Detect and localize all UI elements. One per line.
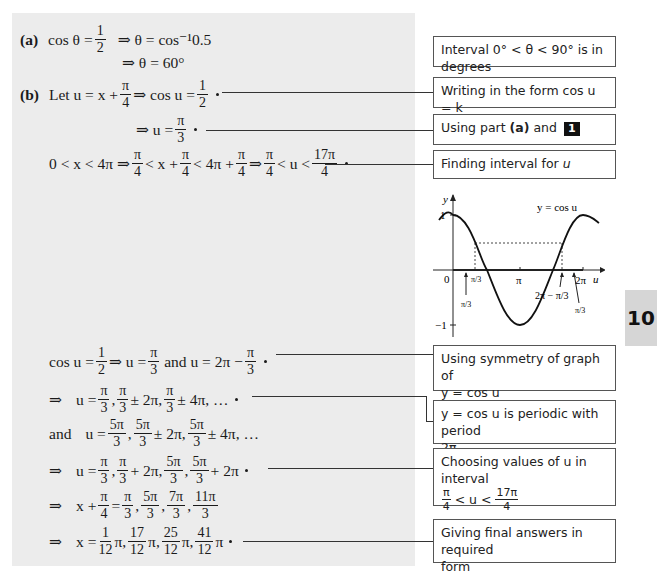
- svg-text:2π − π/3: 2π − π/3: [535, 290, 569, 301]
- annotation-form: Writing in the form cos u = k: [433, 77, 616, 108]
- fraction: π3: [245, 346, 256, 377]
- expr: cos θ =: [48, 31, 93, 49]
- fraction: π3: [98, 384, 109, 415]
- fraction: 112: [98, 526, 112, 557]
- fraction: 5π3: [108, 418, 126, 449]
- part-a-label: (a): [20, 31, 38, 49]
- expr: ⇒ θ = 60°: [122, 54, 184, 72]
- expr: 0 < x < 4π ⇒: [49, 155, 130, 173]
- expr: ± 2π,: [154, 425, 186, 443]
- annotation-text: Giving final answers in required: [441, 524, 608, 558]
- y-axis-arrow-icon: [450, 194, 456, 201]
- connector-dot: [194, 128, 197, 131]
- expr: ⇒: [249, 155, 262, 173]
- implies-arrow: ⇒: [49, 497, 62, 515]
- pi: π: [182, 533, 190, 551]
- fraction: 12: [96, 346, 107, 377]
- part-b-line-7: ⇒ u = π3, π3 + 2π, 5π3, 5π3 + 2π: [49, 455, 248, 486]
- expr: =: [111, 497, 120, 515]
- connector-line: [325, 164, 433, 165]
- fraction: π3: [175, 114, 186, 145]
- connector-dot: [235, 398, 238, 401]
- implies-arrow: ⇒: [49, 533, 62, 551]
- fraction: 2512: [162, 526, 180, 557]
- part-b-line-8: ⇒ x + π4 = π3, 5π3, 7π3, 11π3: [49, 490, 220, 521]
- annotation-text: Finding interval for: [441, 156, 559, 171]
- expr: < u <: [277, 155, 310, 173]
- origin-label: 0: [444, 273, 450, 285]
- annotation-text: u: [563, 156, 571, 171]
- expr: ⇒ cos u =: [133, 86, 195, 104]
- expr: x +: [76, 497, 96, 515]
- svg-text:π/3: π/3: [461, 300, 471, 309]
- expr: ± 2π,: [130, 391, 162, 409]
- expr: < 4π +: [193, 155, 234, 173]
- x-tick-2pi: 2π: [575, 274, 587, 286]
- annotation-final: Giving final answers in required form: [433, 519, 616, 563]
- part-b-line-6: and u = 5π3, 5π3 ± 2π, 5π3 ± 4π, …: [49, 418, 259, 449]
- y-tick-1: 1: [440, 209, 446, 221]
- annotation-symmetry: Using symmetry of graph of y = cos u: [433, 345, 616, 391]
- fraction: 5π3: [190, 455, 208, 486]
- fraction: π3: [164, 384, 175, 415]
- fraction: π3: [117, 455, 128, 486]
- expr: ± 4π, …: [177, 391, 228, 409]
- y-tick-neg1: −1: [435, 319, 447, 331]
- fraction: 12: [95, 24, 106, 55]
- fraction: π4: [180, 148, 191, 179]
- connector-line: [268, 468, 433, 469]
- y-axis-label: y: [442, 193, 448, 205]
- pi: π: [148, 533, 156, 551]
- curve-label: y = cos u: [537, 201, 578, 213]
- fraction: π4: [442, 487, 451, 512]
- annotation-text: Choosing values of u in interval: [441, 453, 608, 487]
- annotation-interval: Finding interval for u: [433, 150, 616, 179]
- part-b-line-9: ⇒ x = 112π, 1712π, 2512π, 4112π: [49, 526, 232, 557]
- part-a-line-1: (a) cos θ = 12 ⇒ θ = cos⁻¹0.5: [20, 24, 211, 55]
- annotation-text: y = cos u is periodic with period: [441, 405, 608, 439]
- annotation-text: < u <: [455, 491, 492, 508]
- pi: π: [215, 533, 223, 551]
- part-b-line-3: 0 < x < 4π ⇒ π4 < x + π4 < 4π + π4 ⇒ π4 …: [49, 148, 348, 179]
- x-axis-arrow-icon: [600, 267, 605, 273]
- part-b-line-5: ⇒ u = π3, π3 ± 2π, π3 ± 4π, …: [49, 384, 238, 415]
- fraction: 7π3: [167, 490, 185, 521]
- connector-line: [222, 92, 433, 93]
- connector-line: [426, 421, 433, 422]
- fraction: π3: [117, 384, 128, 415]
- fraction: 5π3: [164, 455, 182, 486]
- fraction: π3: [148, 346, 159, 377]
- connector-dot: [229, 540, 232, 543]
- expr: < x +: [145, 155, 178, 173]
- expr: u =: [76, 391, 96, 409]
- fraction: π4: [98, 490, 109, 521]
- fraction: 5π3: [141, 490, 159, 521]
- expr: + 2π: [211, 462, 239, 480]
- annotation-text: y = cos u: [441, 384, 608, 401]
- annotation-part-a: Using part (a) and 1: [433, 114, 616, 145]
- fraction: π4: [264, 148, 275, 179]
- x-tick-pi-over-3: π/3: [471, 275, 481, 284]
- implies-arrow: ⇒: [49, 391, 62, 409]
- expr: u =: [76, 462, 96, 480]
- annotation-choosing: Choosing values of u in interval π4 < u …: [433, 448, 616, 506]
- fraction: π4: [120, 79, 131, 110]
- annotation-text: Using symmetry of graph of: [441, 350, 608, 384]
- annotation-periodic: y = cos u is periodic with period 2π: [433, 400, 616, 444]
- expr: ⇒ u =: [136, 121, 173, 139]
- annotation-text: Interval 0° < θ < 90° is in degrees: [441, 42, 603, 74]
- expr: + 2π,: [130, 462, 162, 480]
- part-b-line-4: cos u = 12 ⇒ u = π3 and u = 2π − π3: [49, 346, 267, 377]
- expr: ⇒ u =: [109, 353, 146, 371]
- connector-dot: [264, 360, 267, 363]
- pi: π: [114, 533, 122, 551]
- connector-line: [243, 541, 433, 542]
- implies-arrow: ⇒: [49, 462, 62, 480]
- svg-text:π/3: π/3: [575, 306, 585, 315]
- annotation-text: form: [441, 558, 608, 575]
- connector-dot: [216, 93, 219, 96]
- x-tick-pi: π: [516, 274, 522, 286]
- fraction: π3: [122, 490, 133, 521]
- connector-dot: [245, 469, 248, 472]
- fraction: 12: [197, 79, 208, 110]
